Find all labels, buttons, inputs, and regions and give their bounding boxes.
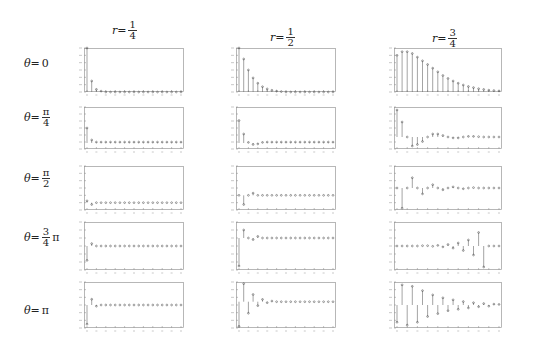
stem-plot-r2-theta3	[394, 222, 502, 274]
column-header-2: r=34	[432, 28, 457, 49]
row-var: θ=	[24, 57, 40, 70]
row-var: θ=	[24, 111, 40, 124]
fraction: 34	[42, 227, 50, 248]
column-header-0: r=14	[112, 20, 137, 41]
stem-plot-r1-theta1	[236, 107, 336, 153]
stem-plot-r0-theta0	[84, 48, 184, 96]
row-header-0: θ=0	[24, 57, 49, 70]
row-header-4: θ=π	[24, 304, 49, 317]
row-header-2: θ=π2	[24, 168, 50, 189]
stem-plot-r0-theta3	[84, 222, 184, 274]
row-value: π	[42, 304, 49, 317]
stem-plot-r0-theta4	[84, 282, 184, 332]
stem-plot-r2-theta2	[394, 166, 502, 214]
fraction: 14	[128, 20, 136, 41]
row-var: θ=	[24, 304, 40, 317]
fraction: π4	[42, 107, 51, 128]
stem-plot-r1-theta2	[236, 166, 336, 214]
fraction: π2	[42, 168, 51, 189]
col-var: r=	[112, 24, 126, 37]
row-suffix: π	[52, 231, 59, 244]
stem-plot-r1-theta3	[236, 222, 336, 274]
stem-plot-r0-theta2	[84, 166, 184, 214]
stem-plot-r0-theta1	[84, 107, 184, 153]
row-header-1: θ=π4	[24, 107, 50, 128]
col-var: r=	[432, 32, 446, 45]
stem-plot-r2-theta0	[394, 48, 502, 96]
fraction: 12	[286, 27, 294, 48]
stem-plot-r1-theta4	[236, 282, 336, 332]
col-var: r=	[270, 31, 284, 44]
column-header-1: r=12	[270, 27, 295, 48]
stem-plot-r2-theta4	[394, 282, 502, 332]
row-value: 0	[42, 57, 49, 70]
row-header-3: θ=34π	[24, 227, 59, 248]
row-var: θ=	[24, 172, 40, 185]
stem-plot-r1-theta0	[236, 48, 336, 96]
fraction: 34	[448, 28, 456, 49]
row-var: θ=	[24, 231, 40, 244]
stem-plot-r2-theta1	[394, 107, 502, 153]
